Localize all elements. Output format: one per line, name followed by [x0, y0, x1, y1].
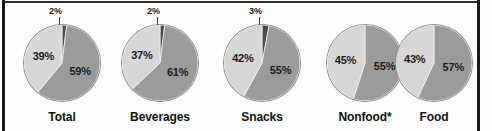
- pie-panel: 61%37%2%Beverages: [112, 0, 208, 131]
- slice-percentage-label: 39%: [33, 50, 54, 62]
- category-label: Beverages: [112, 110, 208, 124]
- pie-chart-figure: 59%39%2%Total61%37%2%Beverages55%42%3%Sn…: [0, 0, 492, 131]
- pie-graphic: 61%37%: [122, 25, 198, 101]
- callout-percentage-label: 3%: [249, 6, 262, 16]
- pie-graphic: 55%42%: [224, 25, 300, 101]
- left-border-rule: [2, 0, 5, 131]
- pie-panel: 59%39%2%Total: [14, 0, 110, 131]
- slice-percentage-label: 61%: [167, 66, 188, 78]
- callout-percentage-label: 2%: [147, 6, 160, 16]
- slice-percentage-label: 42%: [232, 52, 253, 64]
- pie-panel: 57%43%Food: [386, 0, 482, 131]
- category-label: Snacks: [214, 110, 310, 124]
- pie-graphic: 59%39%: [24, 25, 100, 101]
- slice-percentage-label: 59%: [69, 65, 90, 77]
- callout-leader-line: [259, 17, 260, 25]
- slice-percentage-label: 57%: [443, 61, 464, 73]
- callout-leader-line: [59, 17, 60, 25]
- callout-leader-line: [157, 17, 158, 25]
- slice-percentage-label: 37%: [131, 49, 152, 61]
- pie-circle: [24, 25, 100, 101]
- slice-percentage-label: 55%: [270, 64, 291, 76]
- pie-circle: [122, 25, 198, 101]
- pie-panel: 55%42%3%Snacks: [214, 0, 310, 131]
- pie-graphic: 57%43%: [396, 25, 472, 101]
- callout-percentage-label: 2%: [49, 6, 62, 16]
- slice-percentage-label: 45%: [335, 54, 356, 66]
- category-label: Food: [386, 110, 482, 124]
- category-label: Total: [14, 110, 110, 124]
- slice-percentage-label: 43%: [404, 53, 425, 65]
